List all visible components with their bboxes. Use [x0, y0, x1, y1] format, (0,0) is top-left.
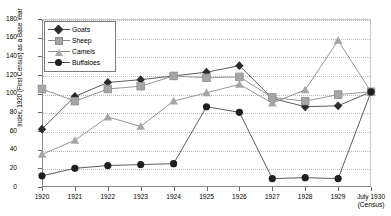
legend-marker-circle-icon: [48, 57, 70, 68]
y-tick-label: 20: [0, 165, 17, 172]
legend-label: Sheep: [70, 37, 92, 45]
legend-marker-diamond-icon: [48, 24, 70, 35]
x-tick-mark: [371, 187, 372, 191]
x-tick-mark: [108, 187, 109, 191]
y-tick-mark: [38, 168, 42, 169]
y-tick-label: 60: [0, 128, 17, 135]
legend-item-camels[interactable]: Camels: [48, 46, 112, 57]
y-tick-mark: [38, 38, 42, 39]
gridline: [43, 113, 370, 114]
gridline: [43, 169, 370, 170]
x-tick-mark: [239, 187, 240, 191]
y-tick-label: 40: [0, 146, 17, 153]
gridline: [43, 76, 370, 77]
y-tick-mark: [38, 150, 42, 151]
x-tick-mark: [272, 187, 273, 191]
gridline: [43, 132, 370, 133]
gridline: [43, 151, 370, 152]
legend-label: Camels: [70, 48, 95, 56]
gridline: [43, 95, 370, 96]
x-tick-mark: [305, 187, 306, 191]
legend-marker-square-icon: [48, 35, 70, 46]
y-tick-mark: [38, 56, 42, 57]
x-tick-mark: [174, 187, 175, 191]
legend-item-goats[interactable]: Goats: [48, 24, 112, 35]
x-tick-mark: [207, 187, 208, 191]
y-tick-label: 0: [0, 184, 17, 191]
y-tick-label: 100: [0, 90, 17, 97]
y-tick-mark: [38, 131, 42, 132]
y-tick-mark: [38, 94, 42, 95]
legend-label: Goats: [70, 26, 90, 34]
legend-label: Buffaloes: [70, 59, 100, 67]
line-chart: Index, 1920 (First Census) as a Base Yea…: [0, 0, 391, 216]
chart-legend: GoatsSheepCamelsBuffaloes: [44, 21, 116, 72]
y-tick-label: 180: [0, 16, 17, 23]
y-tick-label: 140: [0, 53, 17, 60]
y-tick-label: 80: [0, 109, 17, 116]
x-tick-mark: [42, 187, 43, 191]
x-tick-label: July 1930(Census): [344, 193, 391, 209]
y-tick-mark: [38, 19, 42, 20]
x-tick-mark: [338, 187, 339, 191]
x-tick-label-sub: (Census): [344, 201, 391, 209]
legend-marker-triangle-icon: [48, 46, 70, 57]
y-tick-mark: [38, 112, 42, 113]
y-tick-mark: [38, 75, 42, 76]
y-tick-label: 120: [0, 72, 17, 79]
y-tick-label: 160: [0, 34, 17, 41]
legend-item-sheep[interactable]: Sheep: [48, 35, 112, 46]
x-tick-mark: [141, 187, 142, 191]
x-tick-mark: [75, 187, 76, 191]
x-tick-label-main: July 1930: [357, 193, 385, 200]
legend-item-buffaloes[interactable]: Buffaloes: [48, 57, 112, 68]
